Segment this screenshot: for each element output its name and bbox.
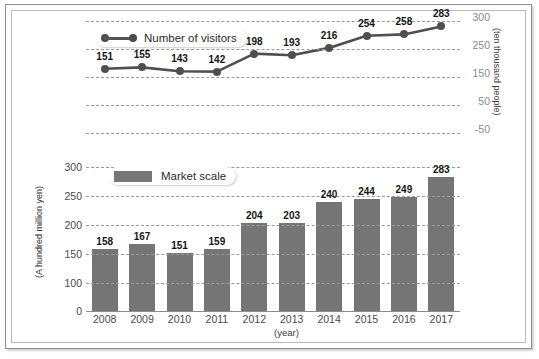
line-point-label: 193 [283,37,300,48]
legend-label-visitors: Number of visitors [144,32,237,44]
legend-number-of-visitors[interactable]: Number of visitors [95,29,247,47]
bar-gridline [86,283,460,284]
bar-value-label: 158 [96,236,113,247]
chart-figure: 151155143142198193216254258283 300250150… [0,0,539,359]
line-gridline [86,105,460,106]
line-point-label: 254 [358,18,375,29]
bar-value-label: 244 [358,186,375,197]
bar-y-tick-300: 300 [64,161,82,173]
x-tick-2016: 2016 [392,313,415,325]
bar-value-label: 203 [283,210,300,221]
bar-2014 [316,202,342,311]
bar-value-label: 167 [134,231,151,242]
line-chart-y-axis-labels: 30025015050-50 [462,10,490,150]
bar-chart-x-axis-title: (year) [274,327,299,338]
bar-value-label: 204 [246,210,263,221]
line-gridline [86,133,460,134]
bar-chart-y-axis-labels: 3002502001501000 [48,158,82,318]
x-tick-2009: 2009 [130,313,153,325]
bar-value-label: 283 [433,164,450,175]
line-data-point [138,63,146,71]
line-y-tick-150: 150 [472,67,490,79]
line-point-label: 142 [209,54,226,65]
line-gridline [86,77,460,78]
bar-y-tick-200: 200 [64,219,82,231]
line-data-point [213,68,221,76]
bar-legend-swatch-icon [114,171,152,182]
bar-gridline [86,254,460,255]
x-tick-2017: 2017 [430,313,453,325]
bar-2013 [279,223,305,311]
line-y-tick-250: 250 [472,39,490,51]
line-point-label: 143 [171,53,188,64]
bar-2008 [92,249,118,311]
bar-y-tick-150: 150 [64,248,82,260]
legend-market-scale[interactable]: Market scale [108,167,236,185]
bar-chart-y-axis-title: (A hundred million yen) [34,186,44,278]
line-y-tick-300: 300 [472,11,490,23]
legend-label-market-scale: Market scale [161,170,226,182]
x-tick-2013: 2013 [280,313,303,325]
bar-2011 [204,249,230,311]
bar-chart-baseline [86,311,460,312]
x-tick-2014: 2014 [317,313,340,325]
line-point-label: 198 [246,36,263,47]
bar-2015 [354,199,380,311]
bar-gridline [86,225,460,226]
line-point-label: 258 [396,16,413,27]
x-tick-2010: 2010 [168,313,191,325]
line-data-point [101,65,109,73]
line-chart-y-axis-title: (ten thousand people) [492,28,502,116]
bar-y-tick-0: 0 [76,305,82,317]
line-data-point [437,22,445,30]
line-point-label: 155 [134,49,151,60]
line-data-point [288,51,296,59]
line-data-point [400,30,408,38]
line-data-point [363,32,371,40]
bar-value-label: 249 [396,184,413,195]
line-data-point [250,50,258,58]
line-y-tick-50: 50 [478,95,490,107]
line-point-label: 283 [433,8,450,19]
bar-y-tick-250: 250 [64,190,82,202]
x-tick-2008: 2008 [93,313,116,325]
line-point-label: 151 [96,51,113,62]
bar-2012 [241,223,267,311]
bar-value-label: 240 [321,189,338,200]
bar-value-label: 151 [171,240,188,251]
line-point-label: 216 [321,30,338,41]
line-y-tick--50: -50 [475,123,490,135]
line-legend-swatch-icon [101,33,137,43]
x-tick-2012: 2012 [243,313,266,325]
bar-y-tick-100: 100 [64,277,82,289]
x-tick-2015: 2015 [355,313,378,325]
line-data-point [325,44,333,52]
line-data-point [176,67,184,75]
bar-value-label: 159 [209,236,226,247]
x-tick-2011: 2011 [206,313,229,325]
bar-gridline [86,196,460,197]
